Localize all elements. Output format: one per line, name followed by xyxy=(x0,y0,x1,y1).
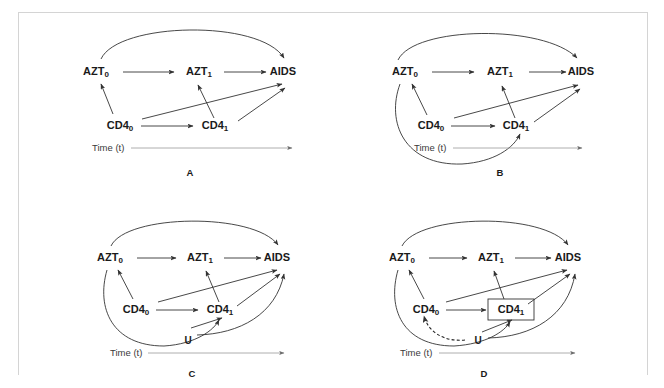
node-cd41: CD41 xyxy=(503,119,530,133)
node-azt0: AZT0 xyxy=(392,65,418,79)
edge-azt0-aids-curved xyxy=(111,221,278,246)
time-axis-label: Time (t) xyxy=(400,347,432,358)
edge-cd40-azt0 xyxy=(409,270,424,299)
edge-cd40-aids xyxy=(158,270,277,302)
panel-b: AZT0 AZT1 AIDS CD40 CD41 Time (t) B xyxy=(332,0,664,194)
panel-caption-d: D xyxy=(481,368,488,379)
edge-cd40-aids xyxy=(454,85,578,118)
node-azt1: AZT1 xyxy=(187,251,213,265)
time-axis-label: Time (t) xyxy=(92,142,124,153)
time-axis-label: Time (t) xyxy=(110,347,142,358)
node-azt0: AZT0 xyxy=(389,251,415,265)
edge-cd41-azt1 xyxy=(494,271,504,299)
node-cd40: CD40 xyxy=(107,119,134,133)
node-azt0: AZT0 xyxy=(97,251,123,265)
node-u: U xyxy=(184,335,191,346)
node-azt1: AZT1 xyxy=(478,251,504,265)
node-aids: AIDS xyxy=(555,251,581,263)
edge-cd40-aids xyxy=(446,270,567,302)
edge-azt0-aids-curved xyxy=(402,221,568,246)
panel-a: AZT0 AZT1 AIDS CD40 CD41 Time (t) A xyxy=(0,0,332,194)
node-cd40: CD40 xyxy=(123,303,150,317)
edge-cd41-aids xyxy=(534,89,580,122)
edge-azt0-aids-curved xyxy=(398,33,577,60)
node-azt1: AZT1 xyxy=(186,65,212,79)
panel-caption-b: B xyxy=(497,167,504,178)
panel-c: AZT0 AZT1 AIDS CD40 CD41 U Time (t) C xyxy=(0,194,332,388)
panel-caption-c: C xyxy=(189,368,196,379)
node-cd40: CD40 xyxy=(418,119,445,133)
time-axis-label: Time (t) xyxy=(414,142,446,153)
edge-cd40-azt0 xyxy=(412,84,427,115)
edge-cd40-azt0 xyxy=(118,270,133,299)
node-azt0: AZT0 xyxy=(83,65,109,79)
node-cd41: CD41 xyxy=(207,303,234,317)
edge-azt0-aids-curved xyxy=(101,30,284,59)
edge-u-cd40-dashed xyxy=(424,316,465,340)
figure-frame: AZT0 AZT1 AIDS CD40 CD41 Time (t) A xyxy=(0,0,664,388)
node-azt1: AZT1 xyxy=(487,65,513,79)
edge-cd40-azt0 xyxy=(101,84,113,114)
node-cd41: CD41 xyxy=(498,303,525,317)
node-aids: AIDS xyxy=(270,65,296,77)
node-cd40: CD40 xyxy=(413,303,440,317)
panel-d: AZT0 AZT1 AIDS CD40 CD41 U Time (t) D xyxy=(332,194,664,388)
panel-caption-a: A xyxy=(187,167,194,178)
node-u: U xyxy=(474,335,481,346)
node-aids: AIDS xyxy=(264,251,290,263)
node-cd41: CD41 xyxy=(202,119,229,133)
node-aids: AIDS xyxy=(568,65,594,77)
